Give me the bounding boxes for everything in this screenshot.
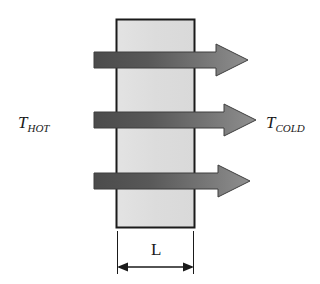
diagram-canvas: THOT TCOLD L — [0, 0, 320, 284]
label-t-cold: TCOLD — [266, 113, 305, 134]
label-t-hot: THOT — [18, 113, 50, 134]
heat-conduction-diagram: THOT TCOLD L — [0, 0, 320, 284]
t-cold-subscript: COLD — [275, 122, 304, 134]
t-hot-subscript: HOT — [26, 122, 50, 134]
label-thickness-l: L — [151, 240, 161, 259]
thickness-dimension-arrow — [117, 263, 194, 272]
